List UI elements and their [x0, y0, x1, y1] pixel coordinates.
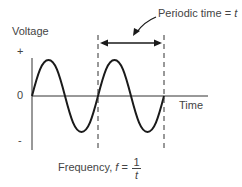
y-tick-zero: 0 — [17, 89, 23, 101]
frequency-equals: = — [118, 161, 127, 173]
frequency-formula: Frequency, f = — [58, 161, 128, 173]
period-label-prefix: Periodic time = — [158, 7, 234, 19]
fraction-numerator: 1 — [133, 156, 139, 168]
label-pointer-arrow — [137, 17, 156, 32]
frequency-prefix: Frequency, — [58, 161, 115, 173]
period-symbol: t — [234, 7, 237, 19]
y-tick-plus: + — [17, 45, 23, 57]
x-axis-label: Time — [179, 99, 203, 111]
period-label: Periodic time = t — [158, 7, 237, 19]
fraction-denominator: t — [135, 169, 138, 181]
frequency-fraction: 1 t — [132, 156, 141, 181]
y-tick-minus: - — [18, 134, 22, 146]
arrowhead-left-icon — [100, 40, 108, 47]
y-axis-label: Voltage — [12, 25, 49, 37]
arrowhead-right-icon — [154, 40, 162, 47]
